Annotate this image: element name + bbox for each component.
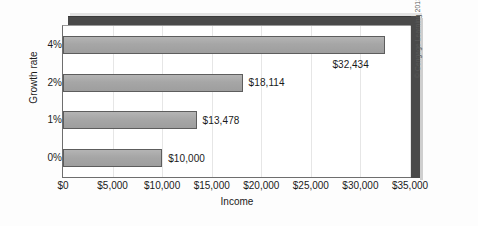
gridline (410, 26, 411, 177)
bar-value-label: $13,478 (203, 115, 240, 126)
plot-area: $10,000$13,478$18,114$32,434 (62, 25, 411, 178)
bar-2pct (63, 74, 243, 92)
x-tick-label: $0 (57, 180, 68, 191)
x-tick-label: $10,000 (144, 180, 180, 191)
bar-value-label: $10,000 (168, 153, 205, 164)
y-tick-label: 1% (18, 114, 62, 125)
x-axis-ticks: $0$5,000$10,000$15,000$20,000$25,000$30,… (62, 180, 412, 196)
y-tick-label: 0% (18, 152, 62, 163)
y-tick-label: 4% (18, 38, 62, 49)
x-axis-title: Income (62, 196, 412, 207)
y-tick-label: 2% (18, 76, 62, 87)
bar-0pct (63, 149, 162, 167)
x-tick-label: $20,000 (243, 180, 279, 191)
bar-row: $10,000 (63, 147, 205, 169)
chart-figure: $10,000$13,478$18,114$32,434 0%1%2%4% Gr… (0, 0, 478, 226)
bar-value-label: $18,114 (249, 77, 285, 88)
bar-row (63, 34, 385, 56)
x-tick-label: $30,000 (342, 180, 378, 191)
bar-row: $13,478 (63, 109, 239, 131)
bar-1pct (63, 111, 197, 129)
x-tick-label: $5,000 (97, 180, 128, 191)
bar-4pct (63, 36, 385, 54)
copyright-credit: © Cengage Learning 2013 (414, 0, 421, 78)
x-tick-label: $25,000 (293, 180, 329, 191)
bar-row: $18,114 (63, 72, 285, 94)
bar-value-label: $32,434 (333, 59, 369, 70)
y-axis-title: Growth rate (28, 23, 39, 133)
x-tick-label: $15,000 (194, 180, 230, 191)
x-tick-label: $35,000 (392, 180, 428, 191)
